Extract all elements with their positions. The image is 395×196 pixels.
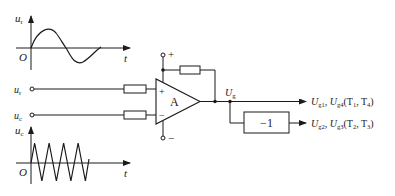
sine-wave xyxy=(31,29,101,62)
output-network: Ug −1 Ug1, Ug4(T1, T4) Ug2, Ug3(T2, T3) xyxy=(200,87,374,133)
input-uc: uc xyxy=(14,110,156,123)
uc-input-resistor xyxy=(124,111,146,119)
supply-negative-terminal xyxy=(161,136,165,140)
inverter-label: −1 xyxy=(260,116,273,130)
ur-terminal xyxy=(30,87,34,91)
ug-label: Ug xyxy=(225,87,236,100)
supply-positive-terminal xyxy=(161,53,165,57)
triangle-carrier-graph: uc O t xyxy=(15,124,130,184)
supply-positive-label: + xyxy=(168,48,174,60)
output-label-bottom: Ug2, Ug3(T2, T3) xyxy=(311,118,374,130)
output-label-top: Ug1, Ug4(T1, T4) xyxy=(311,96,374,108)
opamp: A + − + − xyxy=(156,48,215,144)
opamp-minus-input: − xyxy=(159,110,165,121)
supply-negative-label: − xyxy=(168,132,174,144)
triangle-origin-label: O xyxy=(19,166,27,178)
output-junction xyxy=(213,100,217,104)
uc-label: uc xyxy=(14,110,22,123)
triangle-y-label: uc xyxy=(15,124,24,138)
input-ur: ur xyxy=(14,84,156,97)
opamp-plus-input: + xyxy=(159,86,165,97)
pwm-circuit-diagram: ur O t ur uc uc O t A + − + xyxy=(0,0,395,196)
triangle-wave xyxy=(31,143,89,181)
sine-reference-graph: ur O t xyxy=(15,12,130,70)
sine-origin-label: O xyxy=(19,51,27,63)
ur-label: ur xyxy=(14,84,22,97)
triangle-x-label: t xyxy=(124,167,128,179)
sine-x-label: t xyxy=(124,52,128,64)
ur-input-resistor xyxy=(124,85,146,93)
opamp-label: A xyxy=(170,95,179,109)
feedback-resistor xyxy=(180,66,200,74)
sine-y-label: ur xyxy=(15,12,24,26)
uc-terminal xyxy=(30,113,34,117)
